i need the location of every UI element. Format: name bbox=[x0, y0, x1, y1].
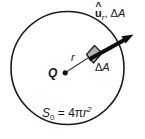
delta-a-vector-label: ΔA bbox=[111, 7, 126, 19]
unit-normal-label: ^ur, ΔA bbox=[95, 8, 125, 22]
area-element-label: ΔA bbox=[95, 62, 110, 73]
delta-symbol: Δ bbox=[111, 7, 118, 19]
surface-exponent: 2 bbox=[87, 105, 91, 114]
radius-line bbox=[66, 56, 92, 73]
pi-symbol: π bbox=[75, 106, 83, 120]
area-symbol: A bbox=[118, 7, 125, 19]
point-charge-dot bbox=[63, 70, 68, 75]
patch-area-symbol: A bbox=[102, 61, 109, 73]
gauss-law-figure: Q r ^ur, ΔA ΔA S0 = 4πr2 bbox=[0, 0, 145, 139]
u-hat-symbol: ^u bbox=[95, 8, 102, 19]
surface-equals: = 4 bbox=[54, 106, 74, 120]
point-charge-label: Q bbox=[48, 67, 57, 79]
radius-label: r bbox=[71, 52, 75, 63]
surface-symbol: S bbox=[42, 106, 50, 120]
surface-area-equation: S0 = 4πr2 bbox=[42, 106, 92, 122]
hat-accent-icon: ^ bbox=[95, 2, 101, 12]
